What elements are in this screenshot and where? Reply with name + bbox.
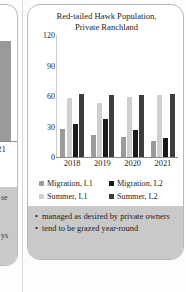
bar: [157, 95, 162, 157]
bar: [109, 95, 114, 157]
bar: [103, 119, 108, 157]
bar: [127, 97, 132, 157]
y-axis-ticks: 1209060300: [33, 35, 55, 157]
legend-label: Migration, L1: [47, 179, 93, 188]
bar: [151, 141, 156, 157]
bar-group: [87, 35, 117, 157]
partial-year-label: 21: [0, 144, 6, 154]
legend-swatch-icon: [39, 194, 44, 199]
legend-item: Migration, L2: [109, 177, 179, 190]
bullet-list: •managed as desired by private owners•te…: [28, 206, 184, 260]
chart-legend: Migration, L1Migration, L2Summer, L1Summ…: [39, 177, 179, 203]
legend-swatch-icon: [109, 194, 114, 199]
partial-text-fragment-bottom: ys: [1, 231, 8, 240]
bar-group: [118, 35, 148, 157]
legend-swatch-icon: [39, 181, 44, 186]
chart-card: Red-tailed Hawk Population, Private Ranc…: [27, 4, 184, 260]
bar: [73, 124, 78, 157]
bullet-marker-icon: •: [35, 211, 42, 222]
bar: [97, 103, 102, 157]
adjacent-slide-panel: 21 se ys: [0, 4, 18, 266]
bar: [91, 135, 96, 157]
bullet-text: tend to be grazed year-round: [42, 223, 177, 234]
legend-label: Migration, L2: [117, 179, 163, 188]
bar: [139, 95, 144, 157]
legend-label: Summer, L2: [117, 192, 158, 201]
partial-text-fragment-top: se: [1, 193, 8, 202]
screenshot-root: 21 se ys Red-tailed Hawk Population, Pri…: [0, 0, 186, 292]
chart-plot-area: 1209060300 2018201920202021: [33, 35, 181, 165]
x-axis-tick-label: 2018: [57, 159, 87, 168]
bar-group: [148, 35, 178, 157]
legend-item: Summer, L2: [109, 190, 179, 203]
bullet-item: •tend to be grazed year-round: [35, 223, 177, 234]
chart-title-line-1: Red-tailed Hawk Population,: [56, 11, 156, 21]
y-axis-tick-label: 60: [33, 92, 55, 101]
bar-group: [57, 35, 87, 157]
bar: [67, 98, 72, 157]
partial-bar: [0, 41, 11, 141]
x-axis-line: [56, 157, 178, 158]
bullet-item: •managed as desired by private owners: [35, 211, 177, 222]
legend-swatch-icon: [109, 181, 114, 186]
y-axis-tick-label: 0: [33, 153, 55, 162]
bar: [121, 137, 126, 157]
y-axis-tick-label: 90: [33, 61, 55, 70]
bullet-marker-icon: •: [35, 223, 42, 234]
x-axis-tick-label: 2020: [118, 159, 148, 168]
x-axis-ticks: 2018201920202021: [57, 159, 178, 168]
panel-divider: [22, 0, 23, 292]
legend-label: Summer, L1: [47, 192, 88, 201]
bar: [60, 129, 65, 157]
bar: [163, 138, 168, 157]
y-axis-tick-label: 120: [33, 31, 55, 40]
x-axis-tick-label: 2019: [87, 159, 117, 168]
x-axis-tick-label: 2021: [148, 159, 178, 168]
bar: [133, 130, 138, 157]
partial-axis-line: [0, 141, 18, 142]
bullet-text: managed as desired by private owners: [42, 211, 177, 222]
y-axis-tick-label: 30: [33, 122, 55, 131]
bar: [170, 94, 175, 157]
legend-item: Migration, L1: [39, 177, 109, 190]
legend-item: Summer, L1: [39, 190, 109, 203]
bar-groups: [57, 35, 178, 157]
bar: [79, 94, 84, 157]
